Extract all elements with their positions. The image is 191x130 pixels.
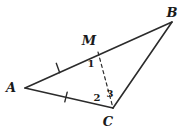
vertex-label-A: A (4, 80, 16, 95)
geometry-figure: A B C M 1 2 3 (0, 0, 191, 130)
vertex-label-B: B (166, 5, 178, 20)
angle-label-3: 3 (107, 88, 114, 99)
angle-label-1: 1 (88, 58, 95, 69)
vertex-label-M: M (81, 33, 97, 48)
vertex-label-C: C (103, 114, 114, 129)
figure-canvas: A B C M 1 2 3 (0, 0, 191, 130)
tick-mark-AM (56, 63, 59, 72)
angle-label-2: 2 (94, 92, 101, 103)
